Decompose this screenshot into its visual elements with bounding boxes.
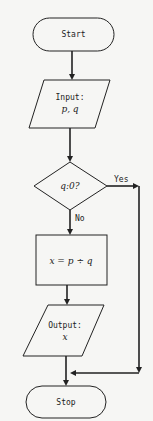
yes-label: Yes — [114, 175, 129, 184]
arrow-start-to-input — [69, 51, 75, 80]
decision-diamond: q:0? — [34, 162, 107, 210]
input-box: Input: p, q — [29, 80, 110, 128]
start-terminal: Start — [33, 18, 114, 51]
yes-branch: Yes — [107, 175, 142, 373]
input-variables: p, q — [61, 104, 78, 114]
no-branch: No — [67, 210, 85, 235]
flowchart: Start Input: p, q q:0? Yes No x = p ÷ q — [0, 0, 153, 421]
merge-arrow — [70, 370, 139, 376]
arrow-input-to-decision — [67, 128, 73, 162]
process-formula: x = p ÷ q — [49, 256, 92, 266]
process-box: x = p ÷ q — [36, 235, 107, 285]
output-box: Output: x — [23, 305, 104, 356]
stop-terminal: Stop — [26, 386, 106, 418]
output-variable: x — [62, 332, 67, 342]
output-label: Output: — [48, 321, 82, 330]
arrow-output-to-stop — [63, 356, 69, 386]
no-label: No — [75, 214, 85, 223]
arrow-process-to-output — [64, 285, 70, 305]
start-label: Start — [61, 30, 85, 39]
decision-condition: q:0? — [60, 181, 80, 191]
stop-label: Stop — [56, 398, 75, 407]
input-label: Input: — [56, 93, 85, 102]
